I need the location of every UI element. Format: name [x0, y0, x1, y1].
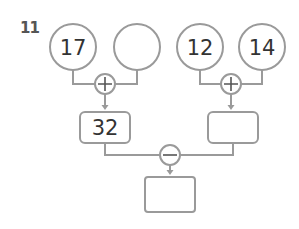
left-sum-value: 32	[92, 116, 119, 140]
input-value-1: 17	[60, 36, 87, 60]
right-sum-box[interactable]	[208, 112, 258, 143]
connector-line	[73, 70, 95, 84]
minus-icon	[160, 145, 180, 165]
arrow-down-icon	[228, 105, 235, 110]
input-value-3: 12	[187, 36, 214, 60]
arrow-down-icon	[167, 170, 174, 175]
connector-line	[241, 70, 262, 84]
final-difference-box[interactable]	[145, 177, 195, 212]
operation-diagram: 17 12 14 32	[0, 0, 299, 229]
plus-icon	[221, 74, 241, 94]
plus-icon	[95, 74, 115, 94]
connector-line	[200, 70, 221, 84]
connector-line	[180, 143, 233, 155]
input-value-4: 14	[249, 36, 276, 60]
input-circle-2[interactable]	[114, 24, 160, 70]
arrow-down-icon	[102, 105, 109, 110]
connector-line	[105, 143, 160, 155]
connector-line	[115, 70, 137, 84]
